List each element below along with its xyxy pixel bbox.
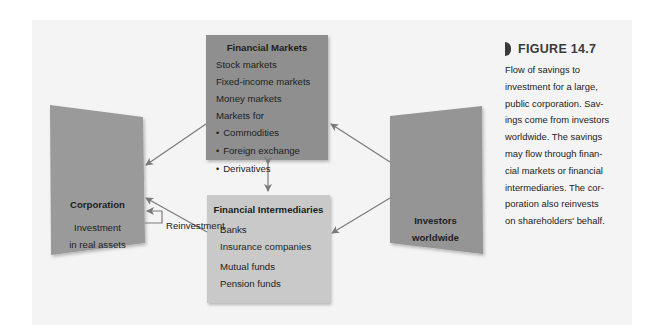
caption-line: on shareholders' behalf. [505,213,655,230]
markets-item: Money markets [206,90,328,107]
markets-item: Markets for [206,107,328,124]
arrow-markets-to-corporation [146,124,206,165]
markets-item: Stock markets [206,56,328,73]
markets-bullet: Commodities [206,124,328,142]
figure-caption: Flow of savings to investment for a larg… [505,62,655,230]
caption-line: investment for a large, [505,79,655,96]
corporation-line: Investment [50,219,145,236]
arrow-investors-to-intermediaries [332,198,390,233]
figure-label: FIGURE 14.7 [505,42,655,56]
reinvestment-label: Reinvestment [166,220,225,231]
intermediaries-item: Mutual funds [207,258,330,275]
intermediaries-item: Insurance companies [207,238,330,255]
investors-line: Investors [388,212,483,229]
financial-intermediaries-box: Financial Intermediaries Banks Insurance… [207,195,330,303]
financial-markets-box: Financial Markets Stock markets Fixed-in… [206,35,328,160]
caption-line: cial markets or financial [505,163,655,180]
figure-caption-block: FIGURE 14.7 Flow of savings to investmen… [505,42,655,230]
caption-line: ings come from investors [505,112,655,129]
caption-line: intermediaries. The cor- [505,180,655,197]
corporation-line: in real assets [50,236,145,253]
caption-line: public corporation. Sav- [505,96,655,113]
half-circle-marker-icon [505,42,511,56]
caption-line: worldwide. The savings [505,129,655,146]
caption-line: poration also reinvests [505,196,655,213]
financial-intermediaries-title: Financial Intermediaries [207,201,330,218]
markets-bullet: Foreign exchange [206,142,328,160]
arrow-investors-to-markets [331,124,390,162]
corporation-box: Corporation Investment in real assets [50,196,145,253]
reinvestment-loop-arrow [145,211,162,223]
caption-line: may flow through finan- [505,146,655,163]
corporation-title: Corporation [50,196,145,213]
investors-box: Investors worldwide [388,212,483,246]
financial-markets-title: Financial Markets [206,39,328,56]
caption-line: Flow of savings to [505,62,655,79]
intermediaries-item: Banks [207,221,330,238]
markets-item: Fixed-income markets [206,73,328,90]
markets-bullet: Derivatives [206,160,328,178]
investors-line: worldwide [388,229,483,246]
figure-number: FIGURE 14.7 [518,42,596,56]
intermediaries-item: Pension funds [207,275,330,292]
